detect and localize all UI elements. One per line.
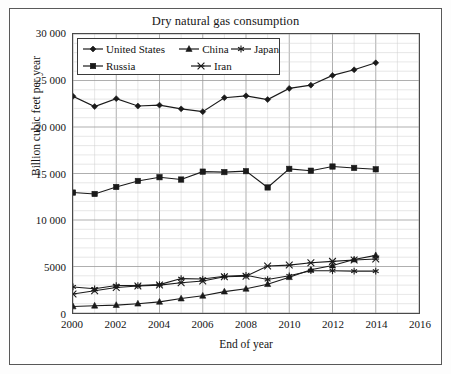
series-japan <box>73 267 379 292</box>
y-tick-label: 0 <box>0 308 66 320</box>
legend-label-iran: Iran <box>214 59 232 73</box>
y-tick-label: 10 000 <box>0 214 66 226</box>
x-tick-label: 2004 <box>148 318 170 330</box>
legend-row-1: United States China Japan <box>78 40 279 57</box>
legend-label-japan: Japan <box>254 42 279 56</box>
x-tick-label: 2012 <box>322 318 344 330</box>
series-russia <box>73 164 378 197</box>
legend-entry-russia[interactable]: Russia <box>78 59 190 73</box>
y-tick-label: 25 000 <box>0 74 66 86</box>
y-tick-label: 30 000 <box>0 27 66 39</box>
x-tick-label: 2000 <box>61 318 83 330</box>
legend-marker-diamond-icon <box>82 42 104 56</box>
legend-label-russia: Russia <box>106 59 135 73</box>
x-tick-label: 2016 <box>409 318 431 330</box>
legend-entry-united-states[interactable]: United States <box>78 42 178 56</box>
legend-entry-china[interactable]: China <box>178 42 230 56</box>
chart-figure: Dry natural gas consumption Billion cubi… <box>0 0 451 374</box>
y-tick-label: 15 000 <box>0 168 66 180</box>
x-tick-label: 2006 <box>192 318 214 330</box>
y-tick-label: 20 000 <box>0 121 66 133</box>
legend-label-united-states: United States <box>106 42 165 56</box>
x-axis-label: End of year <box>72 338 420 350</box>
legend-marker-triangle-icon <box>178 42 200 56</box>
legend-marker-square-icon <box>82 59 104 73</box>
legend-entry-japan[interactable]: Japan <box>230 42 279 56</box>
chart-legend: United States China Japan Russia Iran <box>77 38 280 75</box>
legend-marker-asterisk-icon <box>230 42 252 56</box>
y-tick-label: 5000 <box>0 261 66 273</box>
legend-label-china: China <box>202 42 228 56</box>
legend-row-2: Russia Iran <box>78 57 279 74</box>
plot-area <box>72 33 420 314</box>
x-tick-label: 2014 <box>366 318 388 330</box>
chart-title: Dry natural gas consumption <box>0 14 451 29</box>
x-tick-label: 2002 <box>105 318 127 330</box>
data-series-layer <box>73 34 419 313</box>
legend-marker-cross-icon <box>190 59 212 73</box>
legend-entry-iran[interactable]: Iran <box>190 59 232 73</box>
x-tick-label: 2010 <box>279 318 301 330</box>
x-tick-label: 2008 <box>235 318 257 330</box>
